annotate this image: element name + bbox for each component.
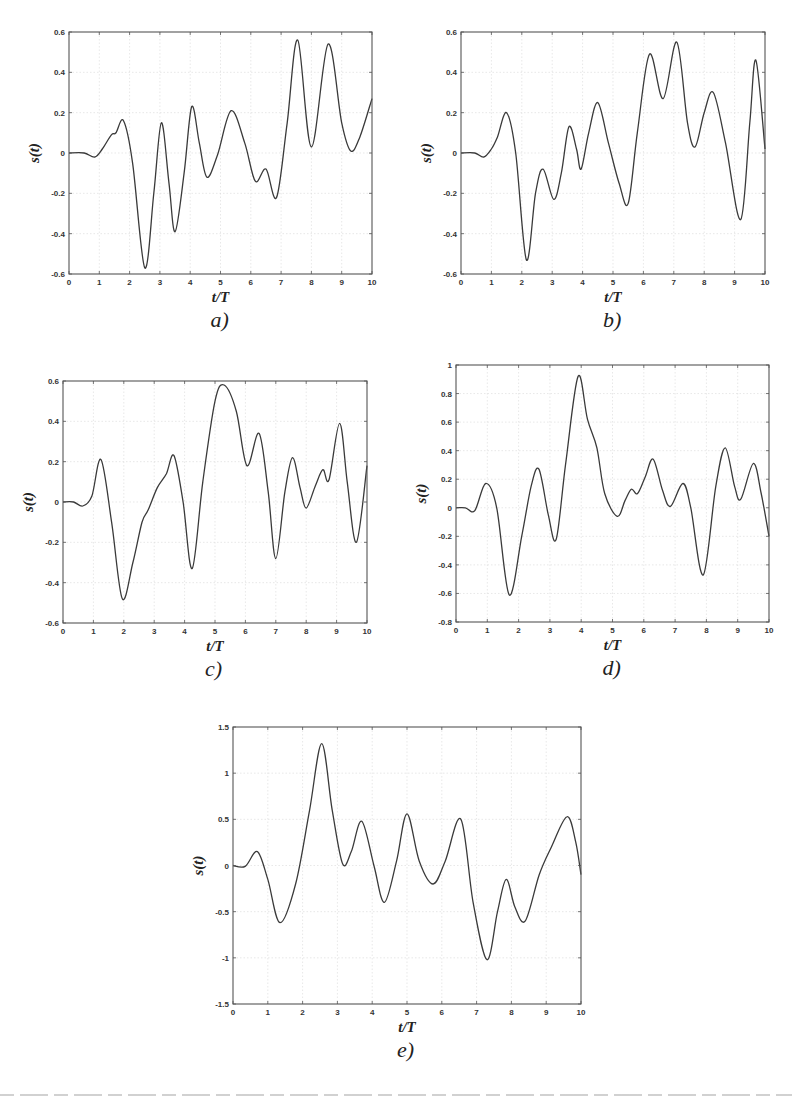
x-tick-label: 4 bbox=[370, 1008, 375, 1017]
x-tick-label: 10 bbox=[577, 1008, 586, 1017]
x-tick-label: 5 bbox=[611, 278, 616, 287]
panel-label-c: c) bbox=[205, 656, 222, 682]
x-tick-label: 9 bbox=[339, 278, 344, 287]
y-tick-label: 0 bbox=[61, 149, 66, 158]
x-tick-label: 5 bbox=[405, 1008, 410, 1017]
x-tick-label: 2 bbox=[300, 1008, 305, 1017]
x-tick-label: 1 bbox=[489, 278, 494, 287]
x-tick-label: 3 bbox=[158, 278, 163, 287]
x-tick-label: 7 bbox=[274, 627, 279, 636]
x-tick-label: 9 bbox=[735, 626, 740, 635]
y-tick-label: 0.6 bbox=[441, 418, 453, 427]
chart-c: 012345678910-0.6-0.4-0.200.20.40.6t/Ts(t… bbox=[20, 377, 372, 654]
x-tick-label: 2 bbox=[127, 278, 132, 287]
x-tick-label: 7 bbox=[673, 626, 678, 635]
chart-b: 012345678910-0.6-0.4-0.200.20.40.6t/Ts(t… bbox=[418, 28, 770, 305]
y-axis-label: s(t) bbox=[20, 492, 37, 513]
y-tick-label: 0 bbox=[448, 504, 453, 513]
y-tick-label: 0.5 bbox=[218, 815, 230, 824]
panel-label-a: a) bbox=[211, 307, 229, 333]
x-tick-label: 0 bbox=[67, 278, 72, 287]
y-tick-label: 0 bbox=[225, 862, 230, 871]
x-axis-label: t/T bbox=[604, 637, 622, 653]
x-tick-label: 2 bbox=[516, 626, 521, 635]
x-tick-label: 4 bbox=[182, 627, 187, 636]
y-tick-label: -0.4 bbox=[438, 561, 452, 570]
x-tick-label: 9 bbox=[334, 627, 339, 636]
x-tick-label: 6 bbox=[440, 1008, 445, 1017]
x-axis-label: t/T bbox=[212, 289, 230, 305]
x-tick-label: 5 bbox=[218, 278, 223, 287]
x-tick-label: 3 bbox=[152, 627, 157, 636]
y-tick-label: -0.6 bbox=[45, 619, 59, 628]
y-tick-label: -0.6 bbox=[438, 589, 452, 598]
chart-a: 012345678910-0.6-0.4-0.200.20.40.6t/Ts(t… bbox=[26, 28, 377, 305]
x-tick-label: 5 bbox=[610, 626, 615, 635]
y-tick-label: 1 bbox=[225, 769, 230, 778]
x-tick-label: 8 bbox=[702, 278, 707, 287]
panel-label-b: b) bbox=[603, 307, 621, 333]
chart-d: 012345678910-0.8-0.6-0.4-0.200.20.40.60.… bbox=[413, 361, 774, 653]
x-tick-label: 4 bbox=[188, 278, 193, 287]
x-tick-label: 0 bbox=[231, 1008, 236, 1017]
x-tick-label: 6 bbox=[642, 626, 647, 635]
y-tick-label: 0.2 bbox=[446, 109, 458, 118]
x-tick-label: 7 bbox=[474, 1008, 479, 1017]
y-tick-label: -0.4 bbox=[45, 579, 59, 588]
cropped-caption bbox=[0, 1092, 792, 1098]
y-tick-label: -0.6 bbox=[443, 270, 457, 279]
x-tick-label: 6 bbox=[641, 278, 646, 287]
x-tick-label: 2 bbox=[122, 627, 127, 636]
x-tick-label: 6 bbox=[243, 627, 248, 636]
y-tick-label: -0.2 bbox=[45, 538, 59, 547]
y-tick-label: 0.2 bbox=[48, 458, 60, 467]
x-tick-label: 10 bbox=[363, 627, 372, 636]
y-tick-label: -1.5 bbox=[215, 1000, 229, 1009]
y-tick-label: -0.2 bbox=[438, 532, 452, 541]
x-tick-label: 0 bbox=[61, 627, 66, 636]
x-tick-label: 10 bbox=[761, 278, 770, 287]
y-tick-label: 0.4 bbox=[446, 68, 458, 77]
x-tick-label: 8 bbox=[509, 1008, 514, 1017]
x-tick-label: 1 bbox=[485, 626, 490, 635]
x-tick-label: 8 bbox=[704, 626, 709, 635]
y-tick-label: -0.4 bbox=[443, 230, 457, 239]
y-tick-label: 0.2 bbox=[54, 109, 66, 118]
x-tick-label: 1 bbox=[97, 278, 102, 287]
y-tick-label: 0.6 bbox=[54, 28, 66, 37]
y-tick-label: -0.8 bbox=[438, 618, 452, 627]
x-tick-label: 7 bbox=[279, 278, 284, 287]
x-axis-label: t/T bbox=[604, 289, 622, 305]
x-tick-label: 8 bbox=[309, 278, 314, 287]
x-tick-label: 10 bbox=[765, 626, 774, 635]
y-tick-label: 0.6 bbox=[48, 377, 60, 386]
x-tick-label: 1 bbox=[91, 627, 96, 636]
x-tick-label: 0 bbox=[459, 278, 464, 287]
y-tick-label: 0.6 bbox=[446, 28, 458, 37]
x-tick-label: 5 bbox=[213, 627, 218, 636]
y-tick-label: 0.4 bbox=[54, 68, 66, 77]
x-axis-label: t/T bbox=[206, 638, 224, 654]
panel-label-e: e) bbox=[397, 1037, 414, 1063]
x-tick-label: 9 bbox=[732, 278, 737, 287]
x-tick-label: 8 bbox=[304, 627, 309, 636]
y-axis-label: s(t) bbox=[418, 143, 435, 164]
x-tick-label: 4 bbox=[580, 278, 585, 287]
y-axis-label: s(t) bbox=[190, 856, 207, 877]
y-tick-label: -0.5 bbox=[215, 908, 229, 917]
x-tick-label: 1 bbox=[266, 1008, 271, 1017]
x-tick-label: 3 bbox=[548, 626, 553, 635]
x-tick-label: 2 bbox=[520, 278, 525, 287]
y-tick-label: -0.6 bbox=[51, 270, 65, 279]
x-tick-label: 0 bbox=[454, 626, 459, 635]
charts-svg: 012345678910-0.6-0.4-0.200.20.40.6t/Ts(t… bbox=[0, 0, 792, 1098]
panel-label-d: d) bbox=[603, 655, 621, 681]
y-tick-label: -0.4 bbox=[51, 230, 65, 239]
y-tick-label: 1 bbox=[448, 361, 453, 370]
x-tick-label: 9 bbox=[544, 1008, 549, 1017]
x-tick-label: 6 bbox=[249, 278, 254, 287]
y-tick-label: -0.2 bbox=[443, 189, 457, 198]
x-axis-label: t/T bbox=[398, 1019, 416, 1035]
x-tick-label: 4 bbox=[579, 626, 584, 635]
y-tick-label: 0 bbox=[453, 149, 458, 158]
